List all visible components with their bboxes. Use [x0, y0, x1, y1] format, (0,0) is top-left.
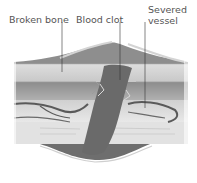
label-severed-vessel-line1: Severed	[148, 4, 187, 15]
label-severed-vessel-line2: vessel	[148, 15, 178, 26]
label-broken-bone: Broken bone	[9, 14, 69, 25]
skin-layer	[14, 64, 188, 82]
wound-cross-section-diagram	[0, 0, 197, 183]
label-blood-clot: Blood clot	[76, 14, 123, 25]
